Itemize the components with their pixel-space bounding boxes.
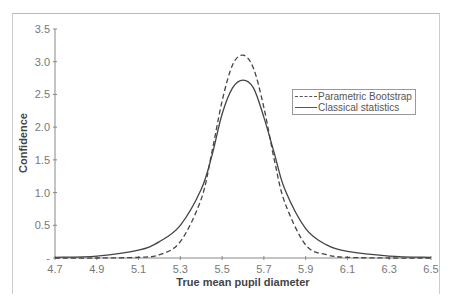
- chart-legend: Parametric Bootstrap Classical statistic…: [292, 89, 416, 115]
- solid-line-swatch: [295, 107, 317, 108]
- dashed-line-swatch: [295, 96, 317, 97]
- legend-label: Classical statistics: [318, 102, 399, 113]
- y-tick-label: 1.0: [35, 187, 50, 199]
- x-tick-label: 5.9: [298, 263, 313, 275]
- y-tick-label: 2.5: [35, 88, 50, 100]
- y-tick-label: 3.5: [35, 23, 50, 35]
- legend-item-bootstrap: Parametric Bootstrap: [295, 91, 413, 102]
- legend-label: Parametric Bootstrap: [318, 91, 412, 102]
- x-tick-label: 4.7: [47, 263, 62, 275]
- x-tick-label: 5.3: [173, 263, 188, 275]
- line-chart: -0.51.01.52.02.53.03.54.74.95.15.35.55.7…: [0, 0, 451, 306]
- x-tick-label: 5.1: [131, 263, 146, 275]
- legend-item-classical: Classical statistics: [295, 102, 413, 113]
- y-tick-label: 1.5: [35, 154, 50, 166]
- x-tick-label: 6.1: [340, 263, 355, 275]
- x-tick-label: 6.3: [382, 263, 397, 275]
- y-axis-label: Confidence: [17, 113, 29, 173]
- y-tick-label: 0.5: [35, 219, 50, 231]
- y-tick-label: 2.0: [35, 121, 50, 133]
- y-tick-label: 3.0: [35, 56, 50, 68]
- x-tick-label: 5.7: [256, 263, 271, 275]
- x-tick-label: 6.5: [423, 263, 438, 275]
- x-axis-label: True mean pupil diameter: [176, 276, 310, 288]
- bootstrap-curve: [55, 55, 431, 258]
- x-tick-label: 4.9: [89, 263, 104, 275]
- x-tick-label: 5.5: [214, 263, 229, 275]
